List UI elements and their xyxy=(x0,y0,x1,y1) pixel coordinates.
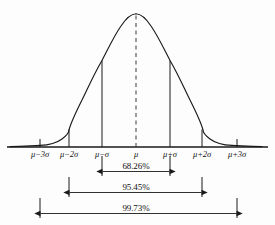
percent-label-two-sigma: 95.45% xyxy=(120,182,151,192)
axis-label-plus-2-sigma: μ+2σ xyxy=(193,149,211,159)
percent-label-one-sigma: 68.26% xyxy=(120,161,151,171)
percent-label-three-sigma: 99.73% xyxy=(120,203,151,213)
normal-distribution-figure: μ−3σ μ−2σ μ−σ μ μ+σ μ+2σ μ+3σ 68.26% 95.… xyxy=(0,0,275,225)
axis-label-minus-3-sigma: μ−3σ xyxy=(31,149,49,159)
axis-label-plus-3-sigma: μ+3σ xyxy=(228,149,246,159)
axis-label-plus-1-sigma: μ+σ xyxy=(163,149,177,159)
axis-label-mu: μ xyxy=(134,149,138,159)
axis-label-minus-1-sigma: μ−σ xyxy=(95,149,109,159)
axis-label-minus-2-sigma: μ−2σ xyxy=(60,149,78,159)
